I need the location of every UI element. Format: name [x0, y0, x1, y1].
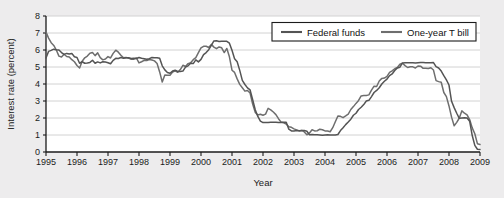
x-axis-tick-labels: 1995199619971998199920002001200220032004…	[36, 157, 490, 167]
x-axis-title: Year	[253, 177, 272, 188]
x-tick-label: 2008	[439, 157, 459, 167]
x-tick-label: 2006	[377, 157, 397, 167]
y-tick-label: 0	[35, 147, 40, 157]
y-tick-label: 8	[35, 11, 40, 21]
x-tick-label: 2002	[253, 157, 273, 167]
y-tick-label: 3	[35, 96, 40, 106]
x-tick-label: 2004	[315, 157, 335, 167]
x-tick-label: 1997	[98, 157, 118, 167]
y-axis-tick-labels: 012345678	[35, 11, 40, 157]
x-tick-label: 2001	[222, 157, 242, 167]
x-tick-label: 2003	[284, 157, 304, 167]
y-tick-label: 6	[35, 45, 40, 55]
interest-rate-line-chart: 012345678 199519961997199819992000200120…	[0, 0, 504, 198]
y-tick-label: 2	[35, 113, 40, 123]
x-tick-label: 2007	[408, 157, 428, 167]
x-tick-label: 2005	[346, 157, 366, 167]
y-axis-title: Interest rate (percent)	[5, 38, 16, 129]
x-tick-label: 1996	[67, 157, 87, 167]
y-tick-label: 4	[35, 79, 40, 89]
x-tick-label: 1995	[36, 157, 56, 167]
chart-legend: Federal funds One-year T bill	[272, 23, 476, 42]
interest-rate-chart-figure: 012345678 199519961997199819992000200120…	[0, 0, 504, 198]
legend-label-federal-funds: Federal funds	[307, 27, 365, 38]
x-tick-label: 2009	[470, 157, 490, 167]
x-tick-label: 1999	[160, 157, 180, 167]
x-tick-label: 2000	[191, 157, 211, 167]
legend-label-one-year-t-bill: One-year T bill	[407, 27, 469, 38]
y-tick-label: 5	[35, 62, 40, 72]
y-tick-label: 7	[35, 28, 40, 38]
y-tick-label: 1	[35, 130, 40, 140]
x-tick-label: 1998	[129, 157, 149, 167]
